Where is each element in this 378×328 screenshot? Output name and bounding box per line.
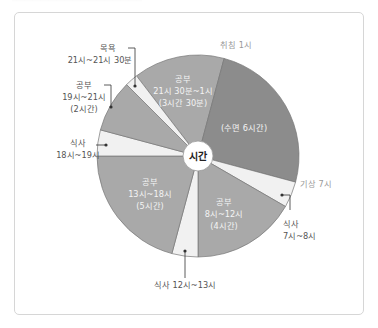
svg-text:18시~19시: 18시~19시 [56, 150, 100, 160]
svg-text:(4시간): (4시간) [210, 221, 238, 231]
label-sleep: (수면 6시간) [221, 123, 267, 133]
label-bedtime: 취침 1시 [220, 40, 252, 50]
svg-text:공부: 공부 [216, 197, 232, 207]
label-meal-dinner: 식사 18시~19시 [56, 138, 100, 160]
label-study-evening: 공부 19시~21시 (2시간) [62, 80, 106, 114]
label-bath: 목욕 21시~21시 30분 [68, 43, 133, 65]
svg-text:식사: 식사 [283, 219, 299, 229]
svg-text:공부: 공부 [175, 74, 191, 84]
svg-text:(2시간): (2시간) [70, 104, 98, 114]
label-wakeup: 기상 7시 [300, 179, 332, 189]
svg-text:식사: 식사 [70, 138, 86, 148]
svg-text:(5시간): (5시간) [136, 201, 164, 211]
pie-chart: 시간 공부 21시 30분~1시 (3시간 30분) (수면 6시간) 공부 8… [0, 0, 378, 328]
svg-text:공부: 공부 [76, 80, 92, 90]
svg-text:8시~12시: 8시~12시 [205, 209, 244, 219]
svg-text:공부: 공부 [142, 177, 158, 187]
center-label: 시간 [189, 150, 208, 162]
svg-text:7시~8시: 7시~8시 [283, 231, 316, 241]
svg-text:21시 30분~1시: 21시 30분~1시 [153, 86, 213, 96]
label-meal-morning: 식사 7시~8시 [283, 219, 316, 241]
svg-text:19시~21시: 19시~21시 [62, 92, 106, 102]
svg-text:목욕: 목욕 [100, 43, 116, 53]
svg-text:13시~18시: 13시~18시 [128, 189, 172, 199]
svg-text:21시~21시 30분: 21시~21시 30분 [68, 55, 133, 65]
label-meal-lunch: 식사 12시~13시 [154, 280, 216, 290]
svg-text:(3시간 30분): (3시간 30분) [159, 98, 208, 108]
